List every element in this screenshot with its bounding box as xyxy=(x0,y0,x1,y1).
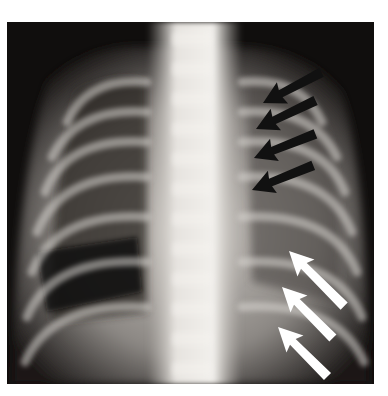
xray-rendering xyxy=(7,22,374,384)
chest-xray-image xyxy=(7,22,374,384)
